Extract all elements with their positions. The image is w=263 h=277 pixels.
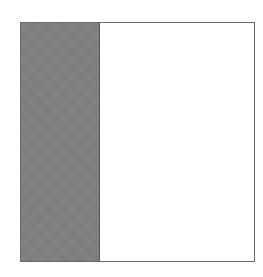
square-outline xyxy=(20,22,255,262)
filled-gray-strip xyxy=(21,23,100,261)
empty-white-region xyxy=(100,23,254,261)
